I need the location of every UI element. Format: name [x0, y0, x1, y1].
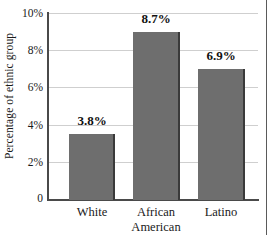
- data-label-latino: 6.9%: [191, 48, 251, 64]
- y-tick-label-0: 0: [0, 192, 43, 204]
- bar-chart-figure: Percentage of ethnic group 10% 8% 6% 4% …: [0, 0, 273, 235]
- x-tick-label-african-american-line1: African: [121, 205, 191, 220]
- y-tick-label-8: 8%: [0, 44, 43, 56]
- data-label-african-american: 8.7%: [126, 11, 186, 27]
- data-label-white: 3.8%: [62, 113, 122, 129]
- x-tick-label-african-american: African American: [121, 205, 191, 235]
- bar-latino: [198, 69, 245, 200]
- y-axis-line: [47, 12, 49, 201]
- x-tick-label-african-american-line2: American: [121, 220, 191, 235]
- x-tick-label-white: White: [57, 205, 127, 220]
- y-tick-label-2: 2%: [0, 156, 43, 168]
- page-right-rule: [266, 0, 267, 235]
- y-tick-label-4: 4%: [0, 119, 43, 131]
- y-tick-label-6: 6%: [0, 81, 43, 93]
- x-tick-label-latino-line1: Latino: [186, 205, 256, 220]
- y-tick-label-10: 10%: [0, 7, 43, 19]
- x-tick-label-latino: Latino: [186, 205, 256, 220]
- bar-african-american: [133, 32, 180, 200]
- x-tick-label-white-line1: White: [57, 205, 127, 220]
- bar-white: [69, 134, 115, 200]
